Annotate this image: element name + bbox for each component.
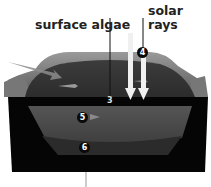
layer-5 (28, 106, 192, 143)
marker-6: 6 (79, 142, 90, 153)
surface-algae-label: surface algae (35, 18, 130, 31)
solar-rays-label-line2: rays (148, 18, 178, 31)
marker-4: 4 (137, 47, 148, 58)
marker-3: 3 (107, 96, 113, 105)
marker-5: 5 (77, 112, 88, 123)
solar-rays-label-line1: solar (148, 4, 183, 17)
